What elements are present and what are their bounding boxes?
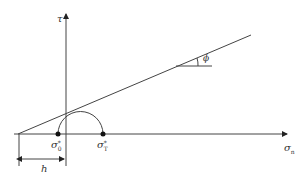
failure-envelope xyxy=(18,35,251,134)
h-dimension-label: h xyxy=(41,164,47,174)
tau-axis-label: τ xyxy=(57,14,63,24)
sigma-t-label: σ*T xyxy=(97,140,108,151)
angle-phi-label: ϕ xyxy=(203,54,209,63)
mohr-diagram xyxy=(0,0,306,180)
angle-arc xyxy=(197,58,198,66)
point-sigma-0 xyxy=(56,132,61,137)
point-sigma-t xyxy=(101,132,106,137)
sigma-0-label: σ*0 xyxy=(51,140,62,151)
sigma-n-axis-label: σn xyxy=(284,143,295,155)
mohr-circle xyxy=(58,112,103,134)
